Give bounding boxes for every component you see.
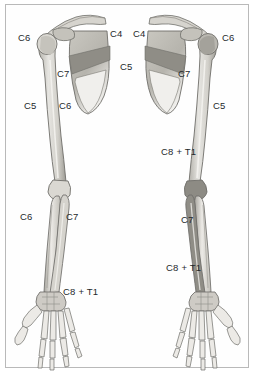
- nerve-label-left-c6-forearm: C6: [20, 212, 33, 222]
- right-hand: [173, 305, 240, 370]
- nerve-label-left-c7-scapula: C7: [57, 69, 70, 79]
- skeleton-illustration: [0, 0, 255, 380]
- myotome-figure: C6C7C5C6C6C7C8 + T1C4C4C5C6C7C5C8 + T1C7…: [0, 0, 255, 380]
- right-upper-limb: [145, 15, 240, 370]
- nerve-label-left-c6-shoulder: C6: [18, 33, 31, 43]
- nerve-label-left-c8t1-hand: C8 + T1: [63, 287, 98, 297]
- nerve-label-center-c5: C5: [120, 62, 133, 72]
- nerve-label-center-c4-right: C4: [133, 29, 146, 39]
- nerve-label-right-c8t1-humerus: C8 + T1: [161, 147, 196, 157]
- nerve-label-center-c4-left: C4: [110, 29, 123, 39]
- nerve-label-right-c7-scapula: C7: [178, 69, 191, 79]
- left-carpus: [36, 292, 66, 311]
- left-forearm: [44, 195, 69, 294]
- nerve-label-right-c6-shoulder: C6: [222, 33, 235, 43]
- nerve-label-right-c7-forearm: C7: [181, 215, 194, 225]
- left-hand: [15, 305, 82, 370]
- nerve-label-left-c6-humerus: C6: [59, 101, 72, 111]
- nerve-label-left-c5-humerus: C5: [24, 101, 37, 111]
- nerve-label-right-c8t1-forearm: C8 + T1: [166, 263, 201, 273]
- right-carpus: [189, 292, 219, 311]
- right-scapula: [145, 28, 202, 114]
- left-humerus: [37, 34, 71, 201]
- nerve-label-left-c7-forearm: C7: [66, 212, 79, 222]
- right-forearm: [186, 195, 211, 294]
- nerve-label-right-c5-humerus: C5: [213, 101, 226, 111]
- right-humerus: [184, 34, 218, 201]
